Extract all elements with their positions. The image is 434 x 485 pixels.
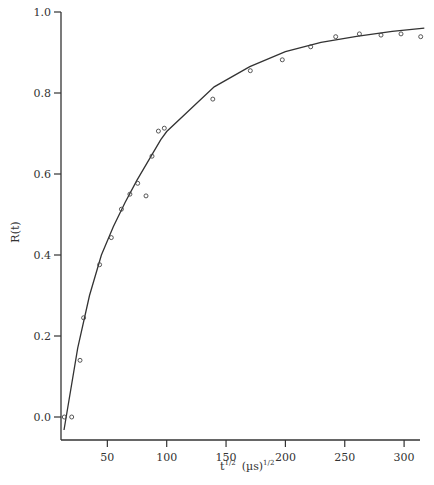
data-points — [62, 32, 422, 419]
x-tick-label: 250 — [334, 451, 355, 464]
data-point-marker — [379, 33, 383, 37]
x-axis-label: t1/2(µs)1/2 — [220, 459, 274, 473]
axes: 0.00.20.40.60.81.050100150200250300 — [34, 6, 421, 464]
chart-figure: 0.00.20.40.60.81.050100150200250300 R(t)… — [0, 0, 434, 485]
data-point-marker — [78, 358, 82, 362]
x-tick-label: 50 — [100, 451, 114, 464]
y-tick-label: 0.0 — [34, 411, 52, 424]
y-tick-label: 0.8 — [34, 87, 52, 100]
data-point-marker — [109, 236, 113, 240]
y-tick-label: 0.4 — [34, 249, 52, 262]
x-tick-label: 300 — [394, 451, 415, 464]
x-tick-label: 100 — [156, 451, 177, 464]
data-point-marker — [399, 32, 403, 36]
data-point-marker — [211, 97, 215, 101]
fit-curve — [64, 28, 424, 430]
data-point-marker — [144, 194, 148, 198]
y-tick-label: 0.6 — [34, 168, 52, 181]
data-point-marker — [136, 181, 140, 185]
y-axis-label: R(t) — [9, 221, 22, 242]
data-point-marker — [280, 58, 284, 62]
y-tick-label: 1.0 — [34, 6, 52, 19]
data-point-marker — [419, 35, 423, 39]
y-tick-label: 0.2 — [34, 330, 52, 343]
data-point-marker — [162, 126, 166, 130]
fit-line — [64, 28, 424, 430]
data-point-marker — [248, 69, 252, 73]
x-tick-label: 200 — [275, 451, 296, 464]
data-point-marker — [156, 129, 160, 133]
data-point-marker — [70, 415, 74, 419]
chart-canvas: 0.00.20.40.60.81.050100150200250300 R(t)… — [0, 0, 434, 485]
data-point-marker — [334, 35, 338, 39]
